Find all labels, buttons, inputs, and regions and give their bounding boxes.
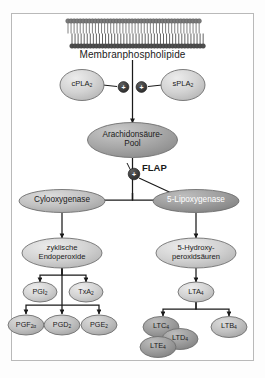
node-lte4 bbox=[140, 337, 176, 358]
node-ltb4 bbox=[211, 317, 247, 338]
node-lta4 bbox=[178, 282, 214, 302]
membrane-bilayer bbox=[66, 19, 206, 49]
node-pgf2a bbox=[8, 315, 44, 335]
nodes bbox=[8, 70, 247, 358]
node-pge2 bbox=[81, 315, 117, 335]
node-txa2 bbox=[69, 282, 103, 302]
node-cpla2 bbox=[60, 70, 104, 101]
node-hydroperoxy-acids bbox=[156, 238, 236, 268]
node-pgi2 bbox=[23, 282, 57, 302]
node-cyclooxygenase bbox=[19, 190, 105, 213]
node-arachidonic-pool bbox=[88, 123, 178, 158]
node-cyclic-endoperoxides bbox=[22, 238, 102, 268]
figure-canvas: Membranphospholipide cPLA2 sPLA2 Arachid… bbox=[0, 0, 265, 378]
node-spla2 bbox=[161, 70, 205, 101]
pathway-diagram bbox=[0, 0, 265, 378]
node-pgd2 bbox=[44, 315, 80, 335]
node-5-lipoxygenase bbox=[153, 190, 239, 213]
connectors bbox=[26, 60, 229, 316]
